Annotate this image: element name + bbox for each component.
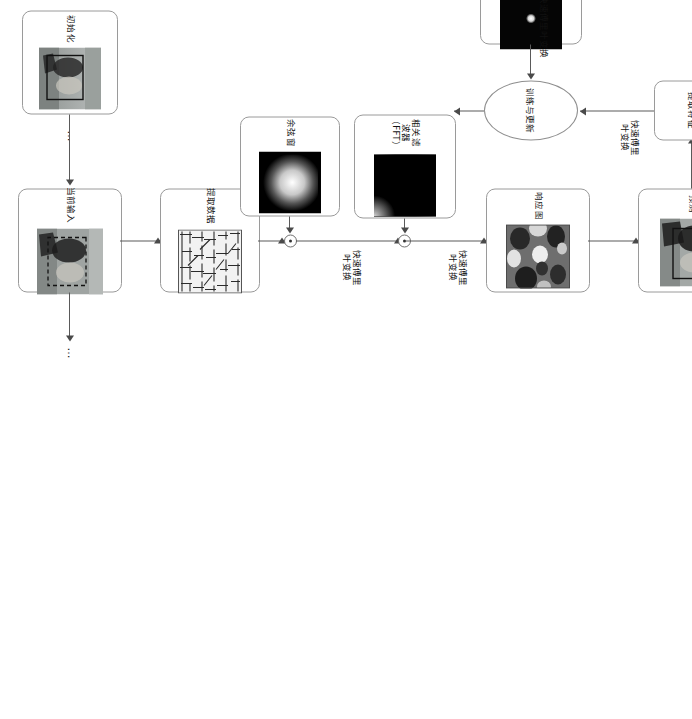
filter-spectrum-icon: [374, 154, 436, 216]
face-roi-dashed-bbox-icon: [37, 228, 103, 294]
node-cosine-window-label: 余弦窗: [285, 119, 295, 147]
gaussian-peak-dot-icon: [500, 0, 562, 49]
edge-cosine-to-mul1-arrow: [286, 227, 294, 233]
edge-label-fft-desired: 快速傅里叶变换: [539, 0, 549, 57]
edge-prediction-to-features: [691, 140, 692, 188]
node-correlation-filter: 相关滤波器 （FFT）: [354, 114, 456, 218]
edge-features-to-train: [580, 110, 654, 111]
edge-current-to-next: [69, 292, 70, 336]
multiply-dot-icon: [289, 239, 292, 242]
node-prediction: 预测: [638, 188, 692, 292]
node-extract-features: 提取特征: [654, 80, 692, 140]
node-train-update-label: 训练与更新: [525, 88, 537, 133]
node-extract-features-label: 提取特征: [686, 92, 692, 129]
node-desired-output: 期望的输出: [480, 0, 582, 44]
node-response-map-label: 响应图: [533, 192, 543, 220]
node-current-input-label: 当前输入: [65, 186, 75, 223]
node-prediction-label: 预测: [687, 194, 692, 212]
edge-desired-to-train-arrow: [527, 73, 535, 79]
node-cosine-window: 余弦窗: [240, 116, 340, 216]
node-response-map: 响应图: [486, 188, 590, 292]
node-correlation-filter-label: 相关滤波器 （FFT）: [390, 116, 419, 150]
ellipsis-before: …: [66, 130, 77, 143]
edge-filter-to-mul2: [404, 218, 405, 228]
node-initialization-label: 初始化: [65, 15, 75, 43]
face-roi-bbox-icon: [39, 47, 101, 109]
edge-label-fft-window: 快速傅里叶变换: [342, 246, 362, 288]
node-initialization: 初始化: [22, 10, 118, 114]
edge-label-fft-filter: 快速傅里叶变换: [448, 246, 468, 288]
edge-features-to-train-arrow: [580, 107, 586, 115]
edge-current-to-next-arrow: [66, 335, 74, 341]
node-train-update: 训练与更新: [484, 80, 578, 140]
edge-filter-to-mul2-arrow: [401, 227, 409, 233]
edge-init-to-current: [69, 114, 70, 180]
edge-init-to-current-arrow: [66, 179, 74, 185]
edge-mul1-to-mul2: [296, 240, 400, 241]
edge-desired-to-train: [530, 44, 531, 74]
node-extract-data-label: 提取数据: [205, 187, 215, 224]
edge-mul2-to-response: [406, 240, 486, 241]
response-heatmap-icon: [506, 224, 570, 288]
face-roi-predicted-bbox-icon: [660, 218, 692, 286]
cosine-window-blob-icon: [259, 151, 321, 213]
edge-label-fft-features: 快速傅里叶变换: [620, 116, 640, 158]
edge-response-to-prediction: [588, 240, 638, 241]
edge-cosine-to-mul1: [289, 216, 290, 228]
ellipsis-after: …: [66, 347, 77, 360]
edge-train-to-filter-arrow: [454, 107, 460, 115]
hog-feature-grid-icon: [178, 229, 242, 293]
node-current-input: 当前输入: [18, 188, 122, 292]
